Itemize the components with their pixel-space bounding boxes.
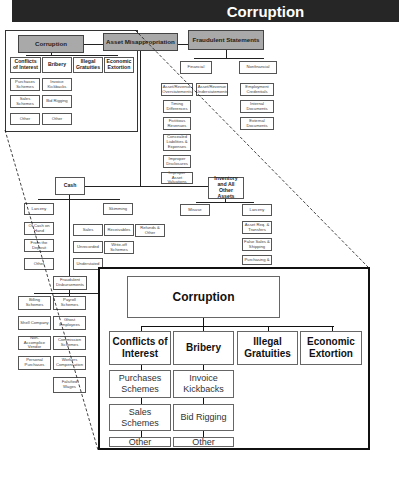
zoom-node-purchases-schemes: Purchases Schemes [109,370,171,398]
zoom-node-corruption: Corruption [127,276,280,318]
zoom-node-conflicts-of-interest: Conflicts of Interest [109,331,171,365]
zoom-node-illegal-gratuities: Illegal Gratuities [237,331,298,365]
zoom-node-bribery: Bribery [173,331,234,365]
zoom-panel: Corruption Conflicts of Interest Bribery… [98,267,370,450]
zoom-node-other-conflicts: Other [109,437,171,447]
zoom-node-invoice-kickbacks: Invoice Kickbacks [173,370,234,398]
zoom-node-bid-rigging: Bid Rigging [173,404,234,431]
zoom-node-sales-schemes: Sales Schemes [109,404,171,431]
zoom-node-other-bribery: Other [173,437,234,447]
zoom-node-economic-extortion: Economic Extortion [300,331,362,365]
